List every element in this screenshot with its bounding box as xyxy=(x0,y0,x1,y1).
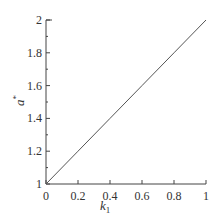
y-axis-label: a* xyxy=(11,95,27,107)
y-tick-label: 1.8 xyxy=(27,46,42,60)
x-tick-label: 0.6 xyxy=(135,189,150,203)
x-tick-label: 0 xyxy=(43,189,49,203)
x-ticks: 00.20.40.60.81 xyxy=(43,180,209,203)
y-tick-label: 1.4 xyxy=(27,111,42,125)
x-tick-label: 0.2 xyxy=(71,189,86,203)
y-tick-label: 1.2 xyxy=(27,144,42,158)
y-tick-label: 1 xyxy=(36,177,42,191)
chart: 11.21.41.61.82 00.20.40.60.81 k1 a* xyxy=(0,0,219,224)
y-ticks: 11.21.41.61.82 xyxy=(27,13,50,191)
y-tick-label: 2 xyxy=(36,13,42,27)
y-tick-label: 1.6 xyxy=(27,79,42,93)
x-tick-label: 1 xyxy=(203,189,209,203)
data-line xyxy=(46,20,206,184)
x-tick-label: 0.8 xyxy=(167,189,182,203)
